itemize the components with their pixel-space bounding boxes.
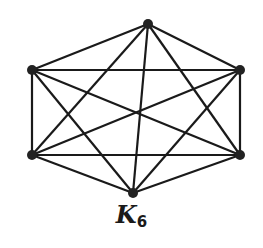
graph-name: K	[116, 200, 137, 229]
vertex-lower-right	[235, 150, 245, 160]
graph-edges	[32, 24, 240, 193]
vertex-top	[143, 19, 153, 29]
vertex-upper-right	[235, 65, 245, 75]
edge-top-upper-left	[32, 24, 148, 70]
vertex-upper-left	[27, 65, 37, 75]
vertex-bottom	[128, 188, 138, 198]
graph-subscript: 6	[137, 213, 147, 231]
graph-label: K6	[0, 200, 263, 231]
vertex-lower-left	[27, 150, 37, 160]
edge-top-upper-right	[148, 24, 240, 70]
